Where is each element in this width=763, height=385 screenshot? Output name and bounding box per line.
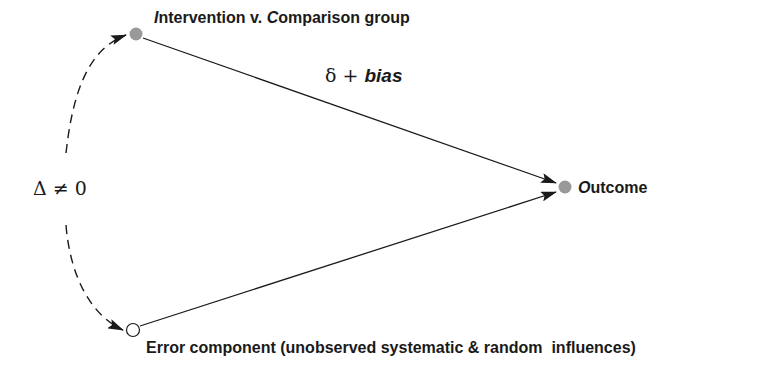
label-effect: δ + bias (325, 64, 402, 86)
node-outcome (559, 181, 572, 194)
node-intervention (130, 28, 143, 41)
edge-intervention-outcome (143, 38, 556, 183)
diagram-canvas: Intervention v. Comparison group δ + bia… (0, 0, 763, 385)
label-outcome: Outcome (578, 179, 647, 196)
edge-error-outcome (140, 192, 556, 326)
node-error (127, 324, 140, 337)
dashed-edge-upper (66, 35, 126, 153)
label-intervention: Intervention v. Comparison group (154, 9, 410, 26)
label-correlation: Δ ≠ 0 (33, 177, 87, 199)
label-error: Error component (unobserved systematic &… (146, 339, 636, 356)
dashed-edge-lower (66, 225, 123, 330)
